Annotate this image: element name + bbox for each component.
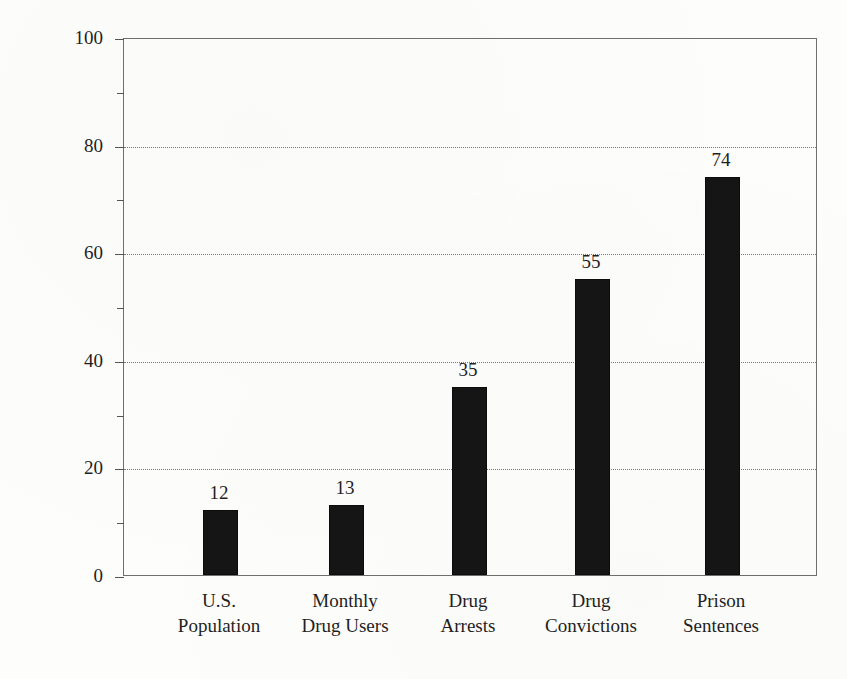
y-tick-label-100: 100 xyxy=(0,28,103,47)
bar xyxy=(452,387,487,575)
y-tick-label-80: 80 xyxy=(0,136,103,155)
y-tick-label-60: 60 xyxy=(0,243,103,262)
bar xyxy=(575,279,610,575)
bar-value-label: 12 xyxy=(179,483,259,502)
bar xyxy=(329,505,364,575)
y-tick-major-0 xyxy=(115,577,124,578)
y-tick-minor-10 xyxy=(117,523,124,524)
category-label-line1: Prison xyxy=(631,588,811,613)
gridline-80 xyxy=(124,147,816,148)
bar-value-label: 35 xyxy=(428,360,508,379)
y-tick-major-100 xyxy=(115,39,124,40)
y-tick-minor-70 xyxy=(117,200,124,201)
chart-page: African American Percentage 020406080100… xyxy=(0,0,847,679)
bar-chart-figure: African American Percentage 020406080100… xyxy=(0,0,847,679)
x-axis-category-label: PrisonSentences xyxy=(631,588,811,638)
y-tick-major-80 xyxy=(115,147,124,148)
y-tick-minor-50 xyxy=(117,308,124,309)
bar-value-label: 13 xyxy=(305,478,385,497)
bar xyxy=(705,177,740,575)
y-tick-major-20 xyxy=(115,469,124,470)
y-tick-minor-30 xyxy=(117,416,124,417)
bar xyxy=(203,510,238,575)
y-tick-label-20: 20 xyxy=(0,458,103,477)
y-tick-minor-90 xyxy=(117,93,124,94)
bar-value-label: 55 xyxy=(551,252,631,271)
y-tick-label-40: 40 xyxy=(0,351,103,370)
y-tick-major-60 xyxy=(115,254,124,255)
y-tick-major-40 xyxy=(115,362,124,363)
bar-value-label: 74 xyxy=(681,150,761,169)
y-tick-label-0: 0 xyxy=(0,566,103,585)
category-label-line2: Sentences xyxy=(631,613,811,638)
